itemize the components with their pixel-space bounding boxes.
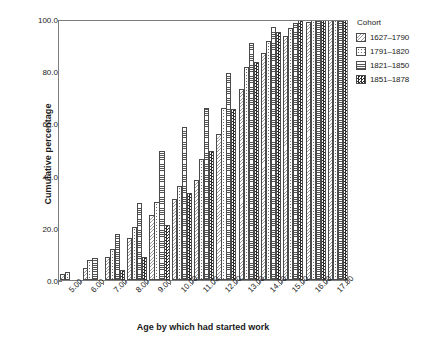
cumulative-percentage-bar-chart: Cumulative percentage 0.020.040.060.080.… — [0, 0, 424, 346]
legend-title: Cohort — [356, 18, 422, 27]
bar — [209, 151, 214, 280]
x-tick-mark — [281, 281, 282, 285]
legend-entries: 1627–17901791–18201821–18501851–1878 — [356, 31, 422, 86]
x-tick-mark — [103, 281, 104, 285]
bar — [276, 32, 281, 280]
x-tick-mark — [147, 281, 148, 285]
x-tick-mark — [303, 281, 304, 285]
legend-swatch-icon — [356, 47, 366, 56]
x-tick-mark — [80, 281, 81, 285]
y-tick-label: 80.0 — [24, 68, 58, 77]
bar — [231, 109, 236, 280]
y-tick-label: 0.0 — [24, 277, 58, 286]
legend-swatch-icon — [356, 61, 366, 70]
y-axis-title: Cumulative percentage — [43, 29, 53, 279]
legend-label: 1791–1820 — [370, 47, 409, 56]
plot-area — [58, 20, 348, 281]
legend-label: 1821–1850 — [370, 61, 409, 70]
y-tick-label: 20.0 — [24, 224, 58, 233]
x-axis: 5.006.007.008.009.0010.0011.0012.0013.00… — [58, 281, 348, 325]
x-tick-mark — [259, 281, 260, 285]
legend-entry: 1791–1820 — [356, 45, 422, 58]
bar — [254, 62, 259, 280]
bar — [298, 20, 303, 280]
x-tick-mark — [326, 281, 327, 285]
x-tick-mark — [214, 281, 215, 285]
x-tick-mark — [58, 281, 59, 285]
legend-label: 1627–1790 — [370, 33, 409, 42]
bar — [321, 20, 326, 280]
y-tick-label: 60.0 — [24, 120, 58, 129]
x-tick-mark — [170, 281, 171, 285]
bar — [92, 258, 97, 280]
bar — [187, 193, 192, 280]
legend-label: 1851–1878 — [370, 75, 409, 84]
bar — [65, 272, 70, 280]
legend-entry: 1821–1850 — [356, 59, 422, 72]
x-tick-mark — [125, 281, 126, 285]
x-tick-mark — [192, 281, 193, 285]
bar — [343, 20, 348, 280]
legend: Cohort 1627–17901791–18201821–18501851–1… — [356, 18, 422, 87]
bar — [164, 225, 169, 280]
legend-entry: 1851–1878 — [356, 73, 422, 86]
x-tick-mark — [236, 281, 237, 285]
x-tick-mark — [347, 281, 348, 285]
y-tick-label: 40.0 — [24, 172, 58, 181]
legend-swatch-icon — [356, 33, 366, 42]
legend-entry: 1627–1790 — [356, 31, 422, 44]
legend-swatch-icon — [356, 75, 366, 84]
x-axis-title: Age by which had started work — [58, 322, 348, 332]
y-axis: Cumulative percentage 0.020.040.060.080.… — [18, 20, 58, 281]
y-tick-label: 100.0 — [24, 16, 58, 25]
